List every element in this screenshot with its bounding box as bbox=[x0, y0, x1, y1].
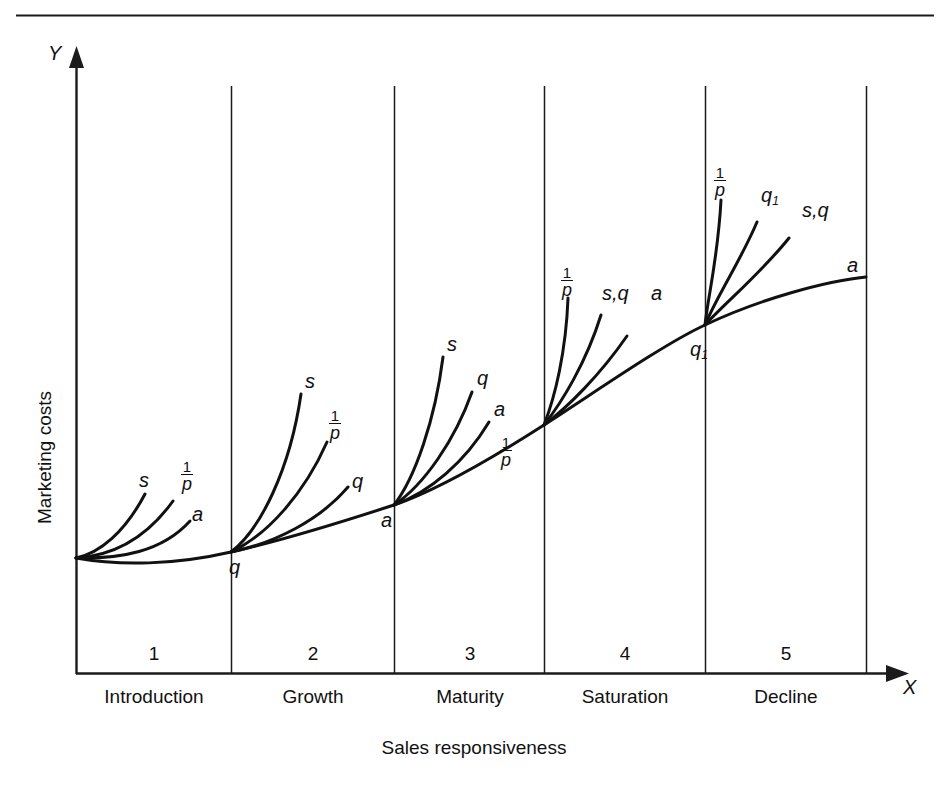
stage-number-5: 5 bbox=[706, 643, 866, 665]
q1-subscript: 1 bbox=[772, 194, 779, 208]
stage-number-4: 4 bbox=[545, 643, 705, 665]
fraction-numerator: 1 bbox=[181, 459, 193, 474]
fan-group-stage-1 bbox=[76, 494, 190, 558]
curve-label-stage2-invp: 1 p bbox=[329, 408, 341, 443]
fraction-numerator: 1 bbox=[714, 165, 726, 180]
y-axis-arrow-icon bbox=[69, 46, 84, 68]
curve-label-stage2-s: s bbox=[305, 371, 315, 391]
curve-label-stage3-s: s bbox=[447, 334, 457, 354]
q1-subscript: 1 bbox=[701, 348, 708, 362]
fraction-denominator: p bbox=[561, 280, 573, 299]
baseline-node-label-invp: 1 p bbox=[500, 435, 512, 470]
fraction-numerator: 1 bbox=[329, 408, 341, 423]
chart-canvas bbox=[0, 0, 948, 795]
fraction-numerator: 1 bbox=[561, 265, 573, 280]
curve-label-stage4-invp: 1 p bbox=[561, 265, 573, 300]
stage-number-2: 2 bbox=[233, 643, 393, 665]
fan-group-stage-4 bbox=[544, 298, 627, 425]
curve-label-stage5-sq: s,q bbox=[802, 199, 829, 222]
x-axis-caption: Sales responsiveness bbox=[0, 737, 948, 759]
curve-label-stage3-q: q bbox=[477, 368, 488, 388]
curve-label-stage1-invp: 1 p bbox=[181, 459, 193, 494]
fan-curve-stage1-invp bbox=[76, 501, 173, 558]
fraction-1-over-p: 1 p bbox=[561, 265, 573, 300]
fraction-denominator: p bbox=[181, 474, 193, 493]
curve-label-stage1-a: a bbox=[192, 504, 203, 524]
fraction-1-over-p: 1 p bbox=[329, 408, 341, 443]
y-axis-label: Marketing costs bbox=[34, 391, 56, 524]
stage-name-growth: Growth bbox=[233, 686, 393, 708]
fraction-1-over-p: 1 p bbox=[714, 165, 726, 200]
stage-name-decline: Decline bbox=[706, 686, 866, 708]
fraction-denominator: p bbox=[329, 423, 341, 442]
fan-curve-stage4-sq bbox=[544, 315, 601, 425]
x-axis-letter: X bbox=[903, 676, 916, 699]
fan-curve-stage1-s bbox=[76, 494, 145, 558]
q1-base: q bbox=[690, 338, 701, 360]
curve-label-stage4-a: a bbox=[651, 283, 662, 303]
baseline-end-label-a: a bbox=[847, 255, 858, 275]
curve-label-stage2-q: q bbox=[352, 471, 363, 491]
stage-number-1: 1 bbox=[74, 643, 234, 665]
q1-base: q bbox=[761, 184, 772, 206]
fraction-1-over-p: 1 p bbox=[500, 435, 512, 470]
fraction-numerator: 1 bbox=[500, 435, 512, 450]
curve-label-stage4-sq: s,q bbox=[602, 282, 629, 305]
baseline-node-label-q: q bbox=[229, 557, 240, 577]
fan-group-stage-3 bbox=[394, 357, 489, 505]
stage-name-introduction: Introduction bbox=[74, 686, 234, 708]
curve-label-stage5-q1: q1 bbox=[761, 185, 779, 205]
stage-number-3: 3 bbox=[390, 643, 550, 665]
stage-name-maturity: Maturity bbox=[390, 686, 550, 708]
curve-label-stage5-invp: 1 p bbox=[714, 165, 726, 200]
fraction-denominator: p bbox=[500, 450, 512, 469]
curve-label-stage1-s: s bbox=[139, 470, 149, 490]
baseline-node-label-a: a bbox=[381, 510, 392, 530]
stage-name-saturation: Saturation bbox=[545, 686, 705, 708]
baseline-node-label-q1: q1 bbox=[690, 339, 708, 359]
fraction-1-over-p: 1 p bbox=[181, 459, 193, 494]
y-axis-letter: Y bbox=[48, 42, 61, 65]
curve-label-stage3-a: a bbox=[494, 399, 505, 419]
figure-root: Y X Marketing costs 1 2 3 4 5 Introducti… bbox=[0, 0, 948, 795]
fraction-denominator: p bbox=[714, 180, 726, 199]
